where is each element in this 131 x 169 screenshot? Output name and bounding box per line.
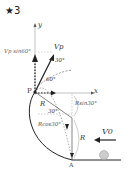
point-a-label: A: [69, 162, 73, 168]
angle-60-label: 60°: [46, 77, 56, 83]
vp-sin60-label: Vp sin60°: [4, 49, 31, 55]
y-axis-label: y: [38, 22, 42, 29]
diagram-canvas: [0, 0, 131, 169]
angle-30-mid-label: 30°: [48, 109, 58, 115]
y-axis-arrow-icon: [34, 23, 37, 27]
v0-label: V0: [102, 128, 113, 136]
x-axis-label: x: [94, 88, 98, 95]
point-p-label: P: [27, 88, 32, 95]
point-p-dot: [33, 90, 36, 93]
vp-label: Vp: [54, 44, 64, 51]
ball: [100, 151, 109, 160]
angle-30-top-label: 30°: [55, 58, 65, 64]
r-cos30-label: Rcos30°: [38, 122, 61, 128]
radius-r2-label: R: [80, 135, 85, 142]
vp-vector: [35, 58, 52, 92]
radius-r1-label: R: [40, 101, 45, 108]
v0-arrow-icon: [94, 137, 100, 143]
vp-vertical-arrow-icon: [32, 54, 38, 62]
vp-arrow-icon: [49, 54, 54, 61]
r-sin30-label: Rsin30°: [75, 101, 97, 107]
